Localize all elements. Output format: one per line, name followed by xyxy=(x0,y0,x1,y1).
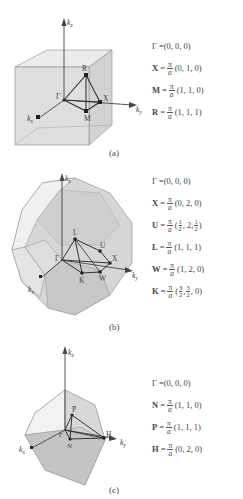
pi-over-a: πa xyxy=(167,61,173,76)
panel-a: kz ky kx R Γ X M (a) Γ = (0, 0, 0) X = π… xyxy=(0,0,243,165)
caption-b: (b) xyxy=(109,322,120,332)
eq-gamma: Γ = (0, 0, 0) xyxy=(152,173,191,189)
eq-x: X = πa (0, 2, 0) xyxy=(152,195,202,211)
svg-text:M: M xyxy=(84,114,91,123)
svg-text:Γ: Γ xyxy=(59,431,63,439)
svg-text:L: L xyxy=(73,228,78,237)
svg-text:X: X xyxy=(103,94,109,103)
eq-m: M = πa (1, 1, 0) xyxy=(152,82,204,98)
eq-r: R = πa (1, 1, 1) xyxy=(152,104,202,120)
eq-x: X = πa (0, 1, 0) xyxy=(152,60,202,76)
eq-w: W = πa (1, 2, 0) xyxy=(152,261,204,277)
svg-text:R: R xyxy=(82,64,87,73)
svg-text:N: N xyxy=(67,442,72,450)
caption-c: (c) xyxy=(109,485,119,495)
caption-a: (a) xyxy=(109,148,119,158)
eq-n: N = πa (1, 1, 0) xyxy=(152,397,202,413)
eq-gamma: Γ = (0, 0, 0) xyxy=(152,375,191,391)
svg-text:ky: ky xyxy=(120,438,127,448)
svg-text:Γ: Γ xyxy=(55,254,60,263)
svg-text:ky: ky xyxy=(136,105,143,115)
bcc-brillouin-zone: kz ky kx P Γ N H xyxy=(0,335,150,499)
svg-text:K: K xyxy=(79,276,85,285)
panel-c: kz ky kx P Γ N H (c) Γ = (0, 0, 0) N = π… xyxy=(0,335,243,499)
svg-text:P: P xyxy=(72,405,76,414)
svg-text:kz: kz xyxy=(65,174,72,184)
fcc-brillouin-zone: kz ky kx L Γ U X W K xyxy=(0,165,150,335)
svg-text:Γ: Γ xyxy=(56,92,61,101)
kz-label: kz xyxy=(67,18,74,28)
eq-p: P = πa (1, 1, 1) xyxy=(152,419,201,435)
eq-k: K = πa (32, 32, 0) xyxy=(152,283,202,299)
eq-h: H = πa (0, 2, 0) xyxy=(152,441,202,457)
svg-text:H: H xyxy=(106,430,112,439)
svg-text:kx: kx xyxy=(19,445,26,455)
panel-b: kz ky kx L Γ U X W K (b) Γ = (0, 0, 0) xyxy=(0,165,243,335)
svg-text:ky: ky xyxy=(132,271,139,281)
svg-text:kz: kz xyxy=(68,348,75,358)
svg-text:X: X xyxy=(112,254,118,263)
eq-u: U = πa (12, 2, 12) xyxy=(152,217,202,233)
eq-gamma: Γ = (0, 0, 0) xyxy=(152,38,191,54)
eq-l: L = πa (1, 1, 1) xyxy=(152,239,201,255)
svg-text:W: W xyxy=(99,274,107,283)
simple-cubic-brillouin-zone: kz ky kx R Γ X M xyxy=(0,0,150,165)
svg-text:U: U xyxy=(100,241,106,250)
